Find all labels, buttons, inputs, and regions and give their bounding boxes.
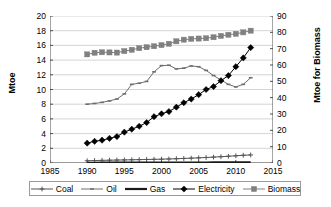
data-marker-square bbox=[92, 50, 97, 55]
x-axis-tick-label: 1985 bbox=[35, 166, 65, 176]
diamond-marker bbox=[172, 184, 196, 194]
line-marker bbox=[124, 184, 148, 194]
data-marker-diamond bbox=[114, 133, 120, 139]
x-axis-tick-label: 1990 bbox=[72, 166, 102, 176]
data-marker-square bbox=[189, 36, 194, 41]
data-marker-square bbox=[204, 36, 209, 41]
data-marker-square bbox=[122, 49, 127, 54]
data-marker-square bbox=[181, 37, 186, 42]
data-marker-square bbox=[241, 30, 246, 35]
square-marker bbox=[242, 184, 266, 194]
series-biomass bbox=[85, 28, 254, 57]
data-marker-square bbox=[196, 36, 201, 41]
legend-label: Oil bbox=[106, 184, 116, 194]
data-marker-diamond bbox=[106, 135, 112, 141]
data-marker-square bbox=[248, 28, 253, 33]
x-axis-tick-label: 2010 bbox=[221, 166, 251, 176]
data-marker-diamond bbox=[173, 104, 179, 110]
data-marker-square bbox=[251, 186, 256, 191]
x-axis-tick-label: 2015 bbox=[258, 166, 288, 176]
plus-marker bbox=[30, 184, 54, 194]
data-marker-diamond bbox=[203, 86, 209, 92]
legend-item-biomass[interactable]: Biomass bbox=[242, 184, 301, 194]
chart-container: Mtoe Mtoe for Biomass 02468101214161820 … bbox=[0, 0, 331, 207]
data-marker-diamond bbox=[84, 140, 90, 146]
data-marker-square bbox=[114, 50, 119, 55]
legend-item-oil[interactable]: Oil bbox=[80, 184, 116, 194]
data-marker-square bbox=[137, 46, 142, 51]
data-marker-diamond bbox=[196, 92, 202, 98]
data-marker-square bbox=[218, 33, 223, 38]
data-marker-diamond bbox=[181, 185, 187, 191]
legend-label: Biomass bbox=[268, 184, 301, 194]
data-marker-diamond bbox=[166, 108, 172, 114]
series-oil bbox=[85, 65, 252, 104]
x-axis-tick-label: 2000 bbox=[147, 166, 177, 176]
plot-area bbox=[50, 16, 273, 163]
series-line-electricity bbox=[87, 48, 251, 144]
data-marker-diamond bbox=[99, 137, 105, 143]
legend-item-electricity[interactable]: Electricity bbox=[172, 184, 234, 194]
data-marker-square bbox=[174, 39, 179, 44]
legend-label: Electricity bbox=[198, 184, 234, 194]
data-marker-diamond bbox=[121, 129, 127, 135]
data-marker-diamond bbox=[92, 138, 98, 144]
chart-legend: CoalOilGasElectricityBiomass bbox=[29, 181, 301, 196]
x-axis-tick-label: 1995 bbox=[109, 166, 139, 176]
dash-marker bbox=[80, 184, 104, 194]
data-marker-diamond bbox=[129, 126, 135, 132]
legend-item-gas[interactable]: Gas bbox=[124, 184, 166, 194]
data-marker-square bbox=[151, 44, 156, 49]
legend-label: Gas bbox=[150, 184, 166, 194]
legend-item-coal[interactable]: Coal bbox=[30, 184, 73, 194]
data-marker-square bbox=[211, 35, 216, 40]
data-marker-square bbox=[107, 50, 112, 55]
data-marker-square bbox=[144, 45, 149, 50]
data-marker-diamond bbox=[158, 111, 164, 117]
data-marker-square bbox=[159, 42, 164, 47]
data-marker-square bbox=[99, 50, 104, 55]
data-marker-square bbox=[129, 47, 134, 52]
data-marker-diamond bbox=[136, 123, 142, 129]
data-marker-diamond bbox=[188, 96, 194, 102]
data-marker-square bbox=[166, 41, 171, 46]
x-axis-tick-label: 2005 bbox=[184, 166, 214, 176]
data-marker-square bbox=[85, 52, 90, 57]
legend-label: Coal bbox=[56, 184, 73, 194]
data-marker-square bbox=[226, 32, 231, 37]
data-marker-diamond bbox=[181, 100, 187, 106]
chart-svg bbox=[50, 16, 273, 163]
data-marker-square bbox=[233, 31, 238, 36]
series-line-oil bbox=[87, 65, 251, 104]
